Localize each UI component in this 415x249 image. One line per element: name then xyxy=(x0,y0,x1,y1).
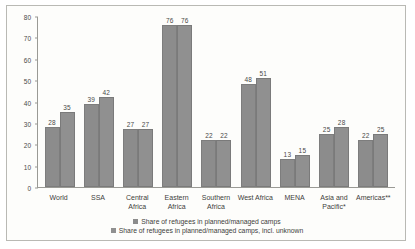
y-axis-tick-label: 30 xyxy=(3,120,31,127)
bar[interactable] xyxy=(334,127,349,187)
bar[interactable] xyxy=(60,112,75,187)
bar-column: 22 xyxy=(201,17,216,187)
bar-value-label: 76 xyxy=(171,17,199,24)
bar-value-label: 22 xyxy=(210,132,238,139)
bar-value-label: 35 xyxy=(53,104,81,111)
bar[interactable] xyxy=(123,129,138,187)
bar[interactable] xyxy=(84,104,99,187)
bar[interactable] xyxy=(280,159,295,187)
bar[interactable] xyxy=(319,134,334,187)
bar-column: 42 xyxy=(99,17,114,187)
bar-column: 22 xyxy=(358,17,373,187)
bar[interactable] xyxy=(216,140,231,187)
bar-column: 76 xyxy=(162,17,177,187)
bar[interactable] xyxy=(177,25,192,187)
y-axis-tick-label: 10 xyxy=(3,163,31,170)
bar-value-label: 51 xyxy=(249,70,277,77)
bar[interactable] xyxy=(295,155,310,187)
legend-swatch-icon xyxy=(111,228,116,233)
y-axis-tick-label: 20 xyxy=(3,142,31,149)
legend-label: Share of refugees in planned/managed cam… xyxy=(119,227,303,234)
bar-group: 3942 xyxy=(79,17,118,187)
y-axis-tick-label: 50 xyxy=(3,78,31,85)
x-axis-category-label: Asia and Pacific* xyxy=(314,190,353,218)
bar-column: 25 xyxy=(373,17,388,187)
x-axis-category-label: Central Africa xyxy=(118,190,157,218)
bar-column: 22 xyxy=(216,17,231,187)
bar[interactable] xyxy=(241,84,256,187)
bar-group: 2727 xyxy=(118,17,157,187)
bar-column: 35 xyxy=(60,17,75,187)
bar[interactable] xyxy=(373,134,388,187)
bar-group: 7676 xyxy=(158,17,197,187)
bar-column: 28 xyxy=(334,17,349,187)
bar[interactable] xyxy=(201,140,216,187)
x-axis-category-label: MENA xyxy=(275,190,314,218)
x-axis-category-label: Eastern Africa xyxy=(157,190,196,218)
bar[interactable] xyxy=(358,140,373,187)
plot-area: 283539422727767622224851131525282225 xyxy=(37,17,395,188)
bar-value-label: 42 xyxy=(92,89,120,96)
bar-value-label: 15 xyxy=(288,147,316,154)
x-axis-category-label: West Africa xyxy=(236,190,275,218)
bar-column: 48 xyxy=(241,17,256,187)
bar[interactable] xyxy=(162,25,177,187)
bar-column: 27 xyxy=(138,17,153,187)
legend-label: Share of refugees in planned/managed cam… xyxy=(141,218,280,225)
legend-swatch-icon xyxy=(133,219,138,224)
x-axis: WorldSSACentral AfricaEastern AfricaSout… xyxy=(37,190,395,218)
bar-series-group: 283539422727767622224851131525282225 xyxy=(38,17,395,187)
bar-group: 2835 xyxy=(40,17,79,187)
bar-column: 15 xyxy=(295,17,310,187)
bar-column: 27 xyxy=(123,17,138,187)
bar-group: 2222 xyxy=(197,17,236,187)
y-axis-tick-label: 80 xyxy=(3,14,31,21)
y-axis-tick-label: 60 xyxy=(3,56,31,63)
bar-group: 2225 xyxy=(354,17,393,187)
legend-item[interactable]: Share of refugees in planned/managed cam… xyxy=(111,227,303,234)
bar-column: 51 xyxy=(256,17,271,187)
bar-group: 4851 xyxy=(236,17,275,187)
x-axis-category-label: SSA xyxy=(78,190,117,218)
x-axis-category-label: World xyxy=(39,190,78,218)
bar-column: 13 xyxy=(280,17,295,187)
chart-legend: Share of refugees in planned/managed cam… xyxy=(7,218,407,234)
y-axis-tick-label: 70 xyxy=(3,35,31,42)
bar-value-label: 27 xyxy=(132,121,160,128)
y-axis-tick-label: 0 xyxy=(3,185,31,192)
bar-column: 76 xyxy=(177,17,192,187)
bar-column: 39 xyxy=(84,17,99,187)
x-axis-category-label: Southern Africa xyxy=(196,190,235,218)
bar-value-label: 28 xyxy=(328,119,356,126)
bar-group: 2528 xyxy=(315,17,354,187)
bar-column: 28 xyxy=(45,17,60,187)
y-axis-tick-label: 40 xyxy=(3,99,31,106)
bar-value-label: 25 xyxy=(367,126,395,133)
bar[interactable] xyxy=(138,129,153,187)
bar[interactable] xyxy=(99,97,114,187)
bar[interactable] xyxy=(256,78,271,187)
bar-column: 25 xyxy=(319,17,334,187)
bar-group: 1315 xyxy=(275,17,314,187)
bar[interactable] xyxy=(45,127,60,187)
legend-item[interactable]: Share of refugees in planned/managed cam… xyxy=(133,218,280,225)
x-axis-category-label: Americas** xyxy=(354,190,393,218)
y-axis: 01020304050607080 xyxy=(7,17,35,188)
chart-container: 01020304050607080 2835394227277676222248… xyxy=(6,5,406,241)
